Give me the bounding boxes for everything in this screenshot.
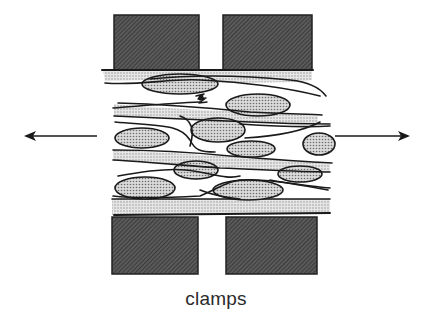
- clamps-top: [114, 15, 312, 70]
- tissue-sample: [102, 70, 335, 215]
- clamp-bottom-left: [112, 217, 198, 274]
- cell: [115, 128, 169, 148]
- clamps-bottom: [112, 217, 317, 274]
- cell: [115, 177, 175, 199]
- clamp-top-right: [223, 15, 312, 70]
- clamps-label: clamps: [0, 288, 432, 310]
- clamp-bottom-right: [226, 217, 317, 274]
- tissue-clamp-diagram: [0, 0, 432, 332]
- cell: [278, 166, 322, 182]
- cell: [227, 141, 275, 157]
- clamp-top-left: [114, 15, 199, 70]
- cell: [303, 133, 335, 155]
